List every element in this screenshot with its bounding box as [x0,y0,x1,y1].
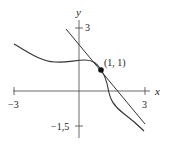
point-marker [98,67,104,73]
x-axis-label: x [154,85,160,97]
graph: y x 3 −1,5 −3 3 (1, 1) [0,0,170,145]
tangent-line [66,29,145,124]
y-tick-label-neg1-5: −1,5 [51,121,69,132]
point-label: (1, 1) [104,57,126,69]
y-axis-label: y [75,6,81,18]
y-tick-label-3: 3 [85,22,90,33]
x-tick-label-neg3: −3 [8,99,19,110]
x-tick-label-3: 3 [142,99,147,110]
